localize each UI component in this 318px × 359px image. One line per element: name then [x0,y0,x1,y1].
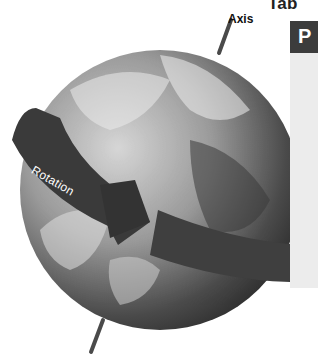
table-heading: Tab [268,0,298,14]
axis-label: Axis [228,12,253,26]
figure-earth-rotation: Axis Rotation Tab P [0,0,318,359]
table-header-cell: P [290,21,318,53]
axis-rod-bottom [91,320,103,352]
table-body [290,53,318,288]
table-header-text: P [298,25,311,48]
